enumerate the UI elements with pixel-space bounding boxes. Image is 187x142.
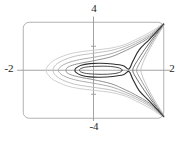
y-axis-bottom-label: -4 <box>84 120 104 133</box>
figure-canvas: 4 -4 -2 2 <box>0 0 187 142</box>
x-axis-left-label: -2 <box>0 62 18 75</box>
y-axis-top-label: 4 <box>88 2 100 15</box>
x-axis-right-label: 2 <box>166 62 178 75</box>
